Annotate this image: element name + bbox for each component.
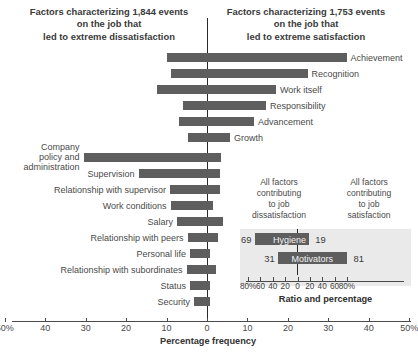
bar-work-conditions: [171, 201, 214, 210]
inset-x-tick-label-8: 80%: [339, 282, 355, 291]
inset-header-left-line-3: to job: [240, 199, 318, 210]
x-tick-3: [126, 318, 127, 322]
left-header: Factors characterizing 1,844 events on t…: [14, 6, 204, 43]
bar-relationship-with-subordinates: [187, 265, 217, 274]
bar-personal-life: [190, 249, 210, 258]
left-header-line-1: Factors characterizing 1,844 events: [14, 6, 204, 18]
x-axis-line: [12, 321, 411, 322]
bar-work-itself: [157, 85, 276, 94]
x-tick-label-10: 50%: [400, 323, 418, 333]
inset-x-tick-8: [347, 277, 348, 281]
bar-responsibility: [183, 101, 267, 110]
x-tick-label-8: 30: [323, 323, 333, 333]
x-tick-7: [288, 318, 289, 322]
inset-x-tick-label-3: 20: [281, 282, 290, 291]
inset-header-right: All factors contributing to job satisfac…: [330, 177, 408, 221]
bar-advancement: [179, 117, 254, 126]
bar-relationship-with-peers: [188, 233, 218, 242]
inset-x-tick-6: [322, 277, 323, 281]
inset-header-left-line-4: dissatisfaction: [240, 210, 318, 221]
inset-header-right-line-2: contributing: [330, 188, 408, 199]
bar-status: [190, 281, 210, 290]
bar-label-work-itself: Work itself: [280, 85, 322, 96]
right-header-line-3: led to extreme satisfaction: [211, 31, 401, 43]
bar-label-advancement: Advancement: [258, 117, 313, 128]
x-tick-10: [409, 318, 410, 322]
x-tick-label-3: 20: [121, 323, 131, 333]
inset-x-tick-label-2: 40: [268, 282, 277, 291]
x-tick-label-4: 10: [162, 323, 172, 333]
inset-header-right-line-1: All factors: [330, 177, 408, 188]
inset-value-left-hygiene: 69: [241, 234, 251, 245]
bar-label-growth: Growth: [234, 133, 263, 144]
bar-label-relationship-with-subordinates: Relationship with subordinates: [60, 265, 182, 276]
x-tick-label-6: 10: [242, 323, 252, 333]
inset-x-tick-2: [273, 277, 274, 281]
bar-label-salary: Salary: [147, 217, 173, 228]
inset-bar-name-hygiene: Hygiene: [273, 235, 306, 245]
bar-label-relationship-with-supervisor: Relationship with supervisor: [54, 185, 166, 196]
x-axis-title: Percentage frequency: [0, 336, 416, 346]
inset-x-tick-3: [285, 277, 286, 281]
bar-label-supervision: Supervision: [87, 169, 134, 180]
right-header: Factors characterizing 1,753 events on t…: [211, 6, 401, 43]
x-tick-label-2: 30: [81, 323, 91, 333]
bar-label-security: Security: [157, 297, 190, 308]
bar-label-relationship-with-peers: Relationship with peers: [90, 233, 183, 244]
bar-label-status: Status: [160, 281, 186, 292]
inset-value-right-hygiene: 19: [315, 234, 325, 245]
inset-header-left-line-1: All factors: [240, 177, 318, 188]
x-tick-1: [45, 318, 46, 322]
inset-value-left-motivators: 31: [264, 253, 274, 264]
bar-label-responsibility: Responsibility: [270, 101, 326, 112]
left-header-line-3: led to extreme dissatisfaction: [14, 31, 204, 43]
inset-value-right-motivators: 81: [353, 253, 363, 264]
bar-label-personal-life: Personal life: [136, 249, 186, 260]
inset-header-right-line-3: to job: [330, 199, 408, 210]
inset-header-left: All factors contributing to job dissatis…: [240, 177, 318, 221]
right-header-line-2: on the job that: [211, 18, 401, 30]
inset-header-right-line-4: satisfaction: [330, 210, 408, 221]
bar-achievement: [167, 53, 347, 62]
bar-label-recognition: Recognition: [312, 69, 360, 80]
inset-panel: All factors contributing to job dissatis…: [238, 177, 413, 310]
x-tick-label-7: 20: [283, 323, 293, 333]
x-tick-label-9: 40: [364, 323, 374, 333]
x-tick-8: [328, 318, 329, 322]
bar-salary: [177, 217, 223, 226]
x-tick-label-5: 0: [204, 323, 209, 333]
inset-x-tick-label-1: 60: [256, 282, 265, 291]
x-tick-label-1: 40: [40, 323, 50, 333]
bar-label-achievement: Achievement: [351, 53, 403, 64]
inset-x-tick-1: [260, 277, 261, 281]
bar-growth: [188, 133, 231, 142]
x-tick-0: [5, 318, 6, 322]
right-header-line-1: Factors characterizing 1,753 events: [211, 6, 401, 18]
x-tick-2: [86, 318, 87, 322]
bar-relationship-with-supervisor: [170, 185, 220, 194]
inset-bar-name-motivators: Motivators: [291, 254, 333, 264]
inset-x-tick-label-5: 20: [305, 282, 314, 291]
inset-x-tick-label-4: 0: [295, 282, 300, 291]
x-tick-5: [207, 318, 208, 322]
inset-header-left-line-2: contributing: [240, 188, 318, 199]
inset-x-tick-4: [298, 277, 299, 281]
left-header-line-2: on the job that: [14, 18, 204, 30]
x-tick-label-0: 50%: [0, 323, 14, 333]
bar-company-policy-and-administration: [84, 153, 221, 162]
x-tick-9: [369, 318, 370, 322]
inset-axis-title: Ratio and percentage: [238, 294, 413, 304]
bar-label-work-conditions: Work conditions: [103, 201, 167, 212]
inset-x-tick-7: [335, 277, 336, 281]
bar-recognition: [171, 69, 308, 78]
bar-label-company-policy-and-administration: Company policy and administration: [0, 142, 80, 173]
x-tick-4: [167, 318, 168, 322]
inset-x-tick-5: [310, 277, 311, 281]
inset-x-tick-label-6: 40: [318, 282, 327, 291]
inset-x-tick-label-0: 80%: [240, 282, 256, 291]
x-tick-6: [247, 318, 248, 322]
inset-x-tick-0: [248, 277, 249, 281]
bar-supervision: [139, 169, 220, 178]
bar-security: [194, 297, 210, 306]
